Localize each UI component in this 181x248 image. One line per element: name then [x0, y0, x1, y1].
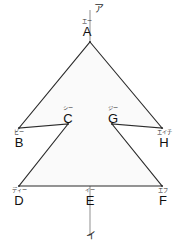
arrow-polygon: [19, 42, 162, 186]
vertex-marker-h: [161, 127, 163, 129]
vertex-marker-f: [161, 185, 163, 187]
vertex-marker-c: [67, 123, 69, 125]
geometry-diagram: [0, 0, 181, 248]
figure-canvas: ア イ エー A ビー B シー C ディー D イー E エフ F ジー G …: [0, 0, 181, 248]
vertex-marker-a: [89, 41, 91, 43]
vertex-marker-g: [111, 123, 113, 125]
vertex-marker-b: [18, 127, 20, 129]
vertex-marker-d: [18, 185, 20, 187]
